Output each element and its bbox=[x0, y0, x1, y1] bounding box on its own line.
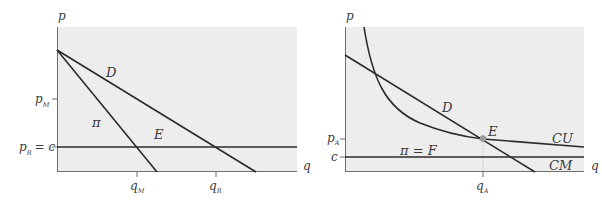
right-tick-pa-label: pA bbox=[327, 131, 340, 147]
right-q-axis-label: q bbox=[591, 159, 599, 173]
right-demand-label: D bbox=[441, 100, 453, 115]
left-q-axis-label: q bbox=[303, 159, 311, 173]
left-tick-pm-label: pM bbox=[35, 92, 50, 109]
right-equilibrium-point bbox=[480, 135, 486, 141]
left-tick-qm-label: qM bbox=[130, 179, 145, 195]
left-plot-background bbox=[57, 27, 297, 172]
economics-figure: p pM pR= c qM qR D π E q bbox=[0, 0, 602, 201]
right-tick-qa-label: qA bbox=[476, 179, 489, 195]
right-marginal-cost-label: CM bbox=[549, 158, 573, 173]
left-panel: p pM pR= c qM qR D π E bbox=[19, 9, 297, 195]
left-tick-pr-label: pR= c bbox=[19, 140, 55, 157]
right-panel: p pA c qA D E π = F CU CM bbox=[327, 9, 584, 195]
right-p-axis-label: p bbox=[346, 9, 354, 23]
right-tick-c-label: c bbox=[331, 150, 338, 164]
left-tick-qr-label: qR bbox=[209, 179, 222, 195]
left-p-axis-label: p bbox=[58, 9, 66, 23]
left-deadweight-label: E bbox=[153, 127, 164, 142]
right-average-cost-label: CU bbox=[552, 131, 574, 146]
left-demand-label: D bbox=[105, 65, 117, 80]
right-plot-background bbox=[345, 27, 584, 172]
right-profit-equals-fixed-cost-label: π = F bbox=[399, 143, 438, 158]
right-equilibrium-label: E bbox=[487, 124, 498, 139]
left-profit-label: π bbox=[91, 115, 101, 130]
